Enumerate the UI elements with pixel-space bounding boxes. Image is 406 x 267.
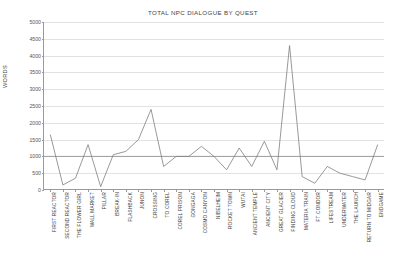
x-axis-tick-label: RETURN TO MIDGAR xyxy=(367,192,372,242)
chart-container: TOTAL NPC DIALOGUE BY QUEST WORDS 050010… xyxy=(0,0,406,267)
x-axis-tick-label: CROSSING xyxy=(153,192,158,219)
x-axis-tick-mark xyxy=(88,190,89,192)
plot-area: 0500100015002000250030003500400045005000 xyxy=(44,22,384,190)
x-axis-tick-mark xyxy=(164,190,165,192)
x-axis-tick-label: LIFESTREAM xyxy=(329,192,334,223)
x-axis-tick-mark xyxy=(75,190,76,192)
y-axis-tick-label: 3000 xyxy=(29,86,41,92)
y-axis-tick-label: 0 xyxy=(38,187,41,193)
x-axis-tick-label: JUNON xyxy=(140,192,145,209)
x-axis-tick-mark xyxy=(189,190,190,192)
x-axis-tick-label: GONGAGA xyxy=(191,192,196,218)
x-axis-tick-label: ANCIENT TEMPLE xyxy=(253,192,258,235)
y-axis-tick-label: 1000 xyxy=(29,153,41,159)
x-axis-tick-label: THE FLOWER GIRL xyxy=(77,192,82,238)
x-axis-tick-mark xyxy=(264,190,265,192)
x-axis-tick-label: ANCIENT CITY xyxy=(266,192,271,227)
x-axis-tick-mark xyxy=(239,190,240,192)
x-axis-tick-mark xyxy=(378,190,379,192)
y-axis-tick-label: 2000 xyxy=(29,120,41,126)
y-axis-label: WORDS xyxy=(2,65,8,88)
y-axis-tick-label: 500 xyxy=(32,170,41,176)
x-axis-tick-label: GREAT GLACIER xyxy=(279,192,284,232)
x-axis-tick-mark xyxy=(101,190,102,192)
x-axis-tick-label: BREAK-IN xyxy=(115,192,120,216)
x-axis-tick-label: TO COREL xyxy=(165,192,170,217)
x-axis-tick-mark xyxy=(201,190,202,192)
x-axis-tick-mark xyxy=(277,190,278,192)
dialogue-words-line xyxy=(50,46,377,187)
x-axis-tick-mark xyxy=(214,190,215,192)
x-axis-tick-mark xyxy=(138,190,139,192)
y-axis-tick-mark xyxy=(42,190,44,191)
x-axis-tick-label: PILLAR xyxy=(102,192,107,209)
x-axis-tick-mark xyxy=(50,190,51,192)
x-axis-tick-mark xyxy=(365,190,366,192)
x-axis-tick-label: WUTAI xyxy=(241,192,246,208)
x-axis-tick-label: COSMO CANYON xyxy=(203,192,208,233)
x-axis-tick-mark xyxy=(302,190,303,192)
x-axis-tick-mark xyxy=(315,190,316,192)
y-axis-tick-label: 5000 xyxy=(29,19,41,25)
y-axis-tick-label: 4500 xyxy=(29,36,41,42)
y-axis-tick-label: 2500 xyxy=(29,103,41,109)
x-axis-tick-mark xyxy=(353,190,354,192)
x-axis-tick-label: COREL PRISON xyxy=(178,192,183,230)
x-axis-tick-label: MATERIA TRAIN xyxy=(304,192,309,230)
x-axis-tick-label: FT CONDOR xyxy=(316,192,321,221)
x-axis-tick-mark xyxy=(176,190,177,192)
x-axis-tick-mark xyxy=(63,190,64,192)
y-axis-tick-label: 3500 xyxy=(29,69,41,75)
x-axis-tick-mark xyxy=(252,190,253,192)
x-axis-tick-label: FLASHBACK xyxy=(128,192,133,222)
x-axis-tick-label: SECOND REACTOR xyxy=(65,192,70,239)
x-axis-tick-mark xyxy=(151,190,152,192)
x-axis-tick-label: THE LAUNCH xyxy=(354,192,359,224)
line-series-svg xyxy=(44,22,384,190)
x-axis-tick-mark xyxy=(340,190,341,192)
x-axis-tick-label: FINDING CLOUD xyxy=(291,192,296,232)
y-axis-tick-label: 4000 xyxy=(29,53,41,59)
x-axis-tick-label: NIBELHEIM xyxy=(216,192,221,219)
x-axis-tick-label: UNDERWATER xyxy=(342,192,347,227)
x-axis-tick-label: FIRST REACTOR xyxy=(52,192,57,232)
x-axis-labels: FIRST REACTORSECOND REACTORTHE FLOWER GI… xyxy=(44,192,384,267)
x-axis-tick-label: WALL MARKET xyxy=(90,192,95,227)
x-axis-tick-mark xyxy=(113,190,114,192)
x-axis-tick-mark xyxy=(327,190,328,192)
x-axis-tick-mark xyxy=(227,190,228,192)
x-axis-tick-mark xyxy=(126,190,127,192)
x-axis-tick-mark xyxy=(290,190,291,192)
y-axis-tick-label: 1500 xyxy=(29,137,41,143)
x-axis-tick-label: ENDGAME xyxy=(379,192,384,217)
chart-title: TOTAL NPC DIALOGUE BY QUEST xyxy=(0,9,406,16)
x-axis-tick-label: ROCKET TOWN xyxy=(228,192,233,229)
